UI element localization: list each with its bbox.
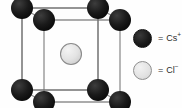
atom-back-top-left [33,9,55,31]
atom-back-top-right [109,9,131,31]
cscl-unit-cell-figure: =Cs+ =Cl− [0,0,182,108]
atom-front-bottom-right [87,79,109,101]
legend-equals-cation: = [158,33,163,43]
legend-charge-anion: − [175,63,179,70]
legend-item-cation: =Cs+ [133,28,181,48]
legend-cation-label: =Cs+ [158,34,181,43]
atom-front-top-right [87,0,109,19]
filled-circle-icon [133,29,152,48]
legend-anion-label: =Cl− [158,66,179,75]
unit-cell-diagram [0,0,182,108]
legend-species-anion: Cl [166,65,175,75]
atom-front-top-left [11,0,33,19]
legend-equals-anion: = [158,65,163,75]
atom-back-bottom-left [33,91,55,108]
open-circle-icon [133,61,152,80]
legend-charge-cation: + [177,31,181,38]
legend-species-cation: Cs [166,33,177,43]
atom-back-bottom-right [109,91,131,108]
body-center-anion [61,44,82,65]
legend-item-anion: =Cl− [133,60,179,80]
atom-front-bottom-left [11,79,33,101]
